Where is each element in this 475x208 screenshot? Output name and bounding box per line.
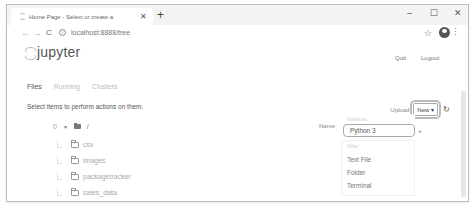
- maximize-button[interactable]: ☐: [430, 8, 438, 18]
- file-name[interactable]: packagetracker: [83, 173, 131, 180]
- tab-close-icon[interactable]: ✕: [140, 12, 147, 21]
- folder-icon: [71, 174, 79, 180]
- file-row[interactable]: csv: [57, 141, 94, 148]
- notebook-section-header: Notebook:: [347, 117, 368, 122]
- new-tab-button[interactable]: +: [157, 8, 164, 22]
- logo-text: jupyter: [37, 44, 80, 60]
- browser-window: Home Page - Select or create a ✕ + – ☐ ✕…: [6, 4, 469, 202]
- select-dropdown-icon[interactable]: ▼: [63, 124, 68, 130]
- list-toolbar: 0 ▼ /: [53, 123, 89, 130]
- browser-menu-icon[interactable]: ⋮: [451, 27, 460, 37]
- reload-icon[interactable]: C: [46, 28, 52, 37]
- row-checkbox[interactable]: [57, 141, 62, 148]
- new-button[interactable]: New ▾: [413, 103, 438, 116]
- menu-item-folder[interactable]: Folder: [347, 169, 365, 176]
- loading-icon: [19, 13, 26, 20]
- menu-item-text-file[interactable]: Text File: [347, 156, 371, 163]
- tab-clusters[interactable]: Clusters: [92, 83, 118, 90]
- forward-icon[interactable]: →: [33, 28, 42, 38]
- file-row[interactable]: packagetracker: [57, 173, 131, 180]
- back-icon[interactable]: ←: [21, 28, 30, 38]
- upload-button[interactable]: Upload: [390, 107, 409, 113]
- jupyter-page: jupyter Quit Logout Files Running Cluste…: [7, 43, 468, 203]
- file-name[interactable]: sales_data: [83, 189, 117, 196]
- new-dropdown-menu: Notebook: Python 3 ▸ Other: Text File Fo…: [337, 114, 415, 198]
- folder-icon: [71, 142, 79, 148]
- address-bar: ← → C i localhost:8888/tree ☆ ⋮: [7, 25, 468, 43]
- file-row[interactable]: images: [57, 157, 106, 164]
- bookmark-star-icon[interactable]: ☆: [424, 28, 432, 38]
- main-tabs: Files Running Clusters: [27, 83, 118, 90]
- submenu-arrow-icon: ▸: [419, 128, 422, 134]
- info-icon[interactable]: i: [59, 29, 66, 36]
- jupyter-logo[interactable]: jupyter: [25, 44, 80, 60]
- select-message: Select items to perform actions on them.: [27, 103, 143, 110]
- browser-titlebar: Home Page - Select or create a ✕ + – ☐ ✕: [7, 5, 468, 25]
- other-section-header: Other:: [347, 144, 360, 149]
- folder-icon: [71, 190, 79, 196]
- tab-files[interactable]: Files: [27, 83, 42, 90]
- minimize-button[interactable]: –: [407, 8, 412, 18]
- logout-button[interactable]: Logout: [421, 55, 439, 61]
- quit-button[interactable]: Quit: [395, 55, 406, 61]
- selected-count: 0: [53, 123, 57, 130]
- page-scrollbar[interactable]: [461, 91, 466, 197]
- row-checkbox[interactable]: [57, 189, 62, 196]
- refresh-icon[interactable]: ↻: [443, 105, 450, 114]
- profile-avatar-icon[interactable]: [439, 27, 450, 38]
- file-row[interactable]: sales_data: [57, 189, 117, 196]
- file-name[interactable]: csv: [83, 141, 94, 148]
- url-field[interactable]: i localhost:8888/tree: [59, 29, 130, 36]
- folder-icon: [71, 158, 79, 164]
- jupyter-logo-icon: [25, 46, 34, 59]
- browser-tab[interactable]: Home Page - Select or create a ✕: [11, 8, 153, 25]
- tab-running[interactable]: Running: [54, 83, 80, 90]
- tab-title: Home Page - Select or create a: [29, 14, 140, 20]
- menu-item-terminal[interactable]: Terminal: [347, 182, 372, 189]
- file-name[interactable]: images: [83, 157, 106, 164]
- row-checkbox[interactable]: [57, 173, 62, 180]
- breadcrumb-path[interactable]: /: [87, 123, 89, 130]
- url-text: localhost:8888/tree: [71, 29, 130, 36]
- menu-item-python3[interactable]: Python 3: [343, 124, 415, 137]
- folder-home-icon[interactable]: [74, 124, 81, 129]
- close-window-button[interactable]: ✕: [454, 8, 462, 18]
- row-checkbox[interactable]: [57, 157, 62, 164]
